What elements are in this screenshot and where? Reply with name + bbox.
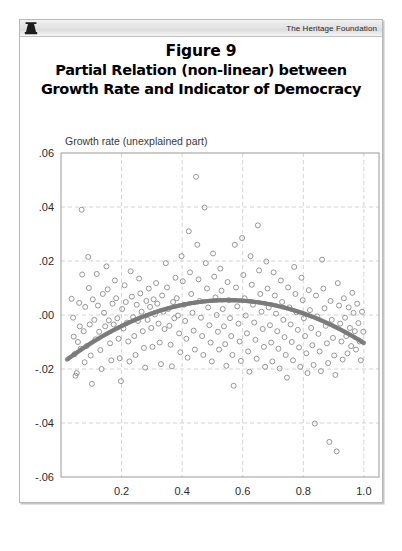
data-point-marker	[89, 381, 94, 386]
data-point-marker	[276, 346, 281, 351]
data-point-marker	[145, 317, 150, 322]
data-point-marker	[80, 272, 85, 277]
data-point-marker	[340, 357, 345, 362]
data-point-marker	[168, 342, 173, 347]
data-point-marker	[261, 344, 266, 349]
figure-title-line-1: Figure 9	[20, 41, 382, 61]
data-point-marker	[288, 322, 293, 327]
data-point-marker	[238, 358, 243, 363]
data-point-marker	[321, 286, 326, 291]
figure-title: Figure 9 Partial Relation (non-linear) b…	[20, 41, 382, 99]
data-point-marker	[134, 302, 139, 307]
data-point-marker	[310, 343, 315, 348]
data-point-marker	[118, 379, 123, 384]
data-point-marker	[180, 279, 185, 284]
figure-title-line-3: Growth Rate and Indicator of Democracy	[20, 80, 382, 99]
data-point-marker	[318, 369, 323, 374]
data-point-marker	[94, 271, 99, 276]
data-point-marker	[188, 270, 193, 275]
data-point-marker	[163, 261, 168, 266]
x-axis-tick-label: 0.8	[296, 485, 311, 497]
data-point-marker	[137, 276, 142, 281]
data-point-marker	[252, 320, 257, 325]
data-point-marker	[293, 291, 298, 296]
data-point-marker	[255, 223, 260, 228]
data-point-marker	[108, 341, 113, 346]
data-point-marker	[338, 321, 343, 326]
data-point-marker	[349, 344, 354, 349]
y-axis-title-group: Growth rate (unexplained part)	[65, 135, 207, 147]
data-point-marker	[198, 315, 203, 320]
data-point-marker	[335, 281, 340, 286]
data-point-marker	[244, 331, 249, 336]
data-point-marker	[234, 285, 239, 290]
data-point-marker	[100, 291, 105, 296]
x-axis-tick-label: 1.0	[356, 485, 371, 497]
data-point-marker	[82, 360, 87, 365]
data-point-marker	[343, 315, 348, 320]
data-point-marker	[195, 242, 200, 247]
data-point-marker	[361, 329, 366, 334]
y-axis-tick-label: -.04	[35, 417, 54, 429]
data-point-marker	[258, 291, 263, 296]
data-point-marker	[71, 334, 76, 339]
data-point-marker	[330, 335, 335, 340]
data-point-marker	[326, 361, 331, 366]
data-point-marker	[158, 362, 163, 367]
data-point-marker	[81, 329, 86, 334]
data-point-marker	[353, 347, 358, 352]
data-point-marker	[324, 341, 329, 346]
data-point-marker	[240, 236, 245, 241]
data-point-marker	[309, 325, 314, 330]
data-point-marker	[280, 300, 285, 305]
data-point-marker	[109, 358, 114, 363]
data-point-marker	[271, 270, 276, 275]
data-point-marker	[243, 313, 248, 318]
data-point-marker	[183, 318, 188, 323]
x-axis-tick-label: 0.6	[235, 485, 250, 497]
data-point-marker	[322, 306, 327, 311]
figure-card: The Heritage Foundation Figure 9 Partial…	[19, 19, 383, 503]
data-point-marker	[104, 264, 109, 269]
data-point-marker	[298, 364, 303, 369]
data-point-marker	[123, 300, 128, 305]
data-point-marker	[190, 310, 195, 315]
data-point-marker	[259, 309, 264, 314]
data-point-marker	[289, 340, 294, 345]
data-point-marker	[116, 336, 121, 341]
data-point-marker	[201, 352, 206, 357]
scatter-plot: Growth rate (unexplained part) .06.04.02…	[20, 112, 384, 504]
data-point-marker	[146, 286, 151, 291]
data-point-marker	[140, 329, 145, 334]
data-point-marker	[282, 335, 287, 340]
data-point-marker	[86, 254, 91, 259]
data-point-marker	[270, 359, 275, 364]
data-points-group	[69, 174, 366, 454]
data-point-marker	[272, 293, 277, 298]
data-point-marker	[267, 323, 272, 328]
y-axis-tick-label: .02	[39, 255, 54, 267]
data-point-marker	[327, 439, 332, 444]
data-point-marker	[97, 329, 102, 334]
data-point-marker	[103, 324, 108, 329]
data-point-marker	[110, 301, 115, 306]
data-point-marker	[102, 310, 107, 315]
data-point-marker	[254, 356, 259, 361]
data-point-marker	[200, 334, 205, 339]
data-point-marker	[260, 327, 265, 332]
data-point-marker	[144, 298, 149, 303]
data-point-marker	[299, 275, 304, 280]
figure-title-line-2: Partial Relation (non-linear) between	[20, 61, 382, 80]
gridlines-group	[61, 153, 379, 477]
data-point-marker	[95, 303, 100, 308]
data-point-marker	[337, 303, 342, 308]
data-point-marker	[263, 364, 268, 369]
y-axis-ticks-group: .06.04.02.00-.02-.04-.06	[35, 147, 54, 483]
data-point-marker	[148, 304, 153, 309]
data-point-marker	[248, 254, 253, 259]
data-point-marker	[160, 293, 165, 298]
data-point-marker	[329, 317, 334, 322]
data-point-marker	[223, 342, 228, 347]
brand-label: The Heritage Foundation	[286, 24, 377, 33]
data-point-marker	[249, 282, 254, 287]
